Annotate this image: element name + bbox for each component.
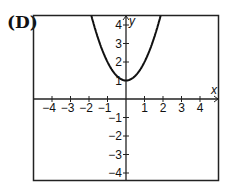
graph: xy−4−3−2−11234−4−3−2−11234	[0, 0, 229, 187]
svg-text:−3: −3	[108, 148, 122, 162]
svg-text:3: 3	[178, 101, 185, 115]
svg-text:−4: −4	[108, 166, 122, 180]
svg-text:1: 1	[141, 101, 148, 115]
svg-text:−2: −2	[108, 129, 122, 143]
svg-text:2: 2	[115, 55, 122, 69]
svg-text:−3: −3	[61, 101, 75, 115]
svg-text:2: 2	[160, 101, 167, 115]
svg-text:−1: −1	[108, 111, 122, 125]
svg-text:y: y	[128, 14, 136, 28]
svg-text:4: 4	[115, 18, 122, 32]
svg-text:−2: −2	[79, 101, 93, 115]
axes: xy−4−3−2−11234−4−3−2−11234	[34, 14, 218, 180]
svg-text:x: x	[210, 83, 218, 97]
svg-text:4: 4	[197, 101, 204, 115]
svg-text:3: 3	[115, 37, 122, 51]
svg-text:−4: −4	[42, 101, 56, 115]
